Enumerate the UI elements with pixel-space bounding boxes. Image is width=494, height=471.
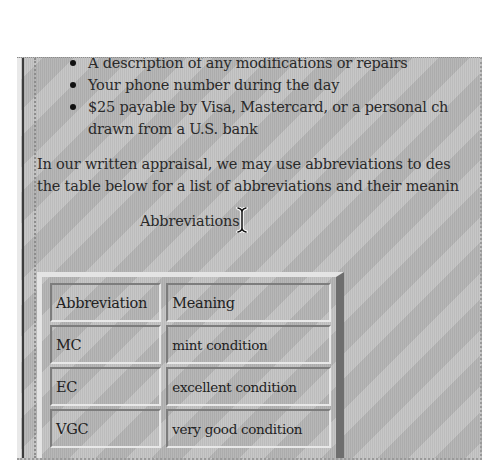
abbreviations-table[interactable]: Abbreviation Meaning MC mint condition E…	[45, 280, 336, 451]
page-left-border-line	[22, 58, 24, 458]
table-caption[interactable]: Abbreviations	[37, 211, 482, 231]
table-cell-meaning[interactable]: excellent condition	[166, 367, 331, 406]
table-header-row: Abbreviation Meaning	[50, 283, 331, 322]
bullet-icon	[70, 60, 76, 66]
table-row: VGC very good condition	[50, 409, 331, 448]
list-item-text: Your phone number during the day	[88, 77, 339, 93]
list-item-text: $25 payable by Visa, Mastercard, or a pe…	[88, 99, 448, 115]
list-item-text: drawn from a U.S. bank	[88, 121, 258, 137]
table-cell-abbreviation[interactable]: VGC	[50, 409, 161, 448]
bullet-icon	[70, 104, 76, 110]
table-header-abbreviation[interactable]: Abbreviation	[50, 283, 161, 322]
page-left-margin	[17, 58, 21, 458]
table-row: EC excellent condition	[50, 367, 331, 406]
table-cell-meaning[interactable]: mint condition	[166, 325, 331, 364]
table-cell-abbreviation[interactable]: EC	[50, 367, 161, 406]
table-header-meaning[interactable]: Meaning	[166, 283, 331, 322]
list-item-text: A description of any modifications or re…	[88, 57, 407, 71]
bullet-icon	[70, 82, 76, 88]
list-item[interactable]: Your phone number during the day	[37, 74, 482, 96]
table-caption-text: Abbreviations	[140, 213, 239, 229]
list-item-continuation[interactable]: drawn from a U.S. bank	[37, 118, 482, 140]
table-cell-meaning[interactable]: very good condition	[166, 409, 331, 448]
requirements-list: A description of any modifications or re…	[37, 57, 482, 140]
document-page[interactable]: A description of any modifications or re…	[17, 57, 482, 460]
list-item[interactable]: $25 payable by Visa, Mastercard, or a pe…	[37, 96, 482, 118]
paragraph-line: In our written appraisal, we may use abb…	[37, 156, 450, 172]
document-content[interactable]: A description of any modifications or re…	[37, 57, 482, 231]
page-left-dotted-guide	[34, 58, 36, 458]
abbreviations-paragraph[interactable]: In our written appraisal, we may use abb…	[37, 153, 482, 197]
table-row: MC mint condition	[50, 325, 331, 364]
table-cell-abbreviation[interactable]: MC	[50, 325, 161, 364]
paragraph-line: the table below for a list of abbreviati…	[37, 178, 459, 194]
list-item[interactable]: A description of any modifications or re…	[37, 57, 482, 74]
i-beam-cursor-icon	[236, 207, 248, 233]
abbreviations-table-frame: Abbreviation Meaning MC mint condition E…	[37, 272, 344, 460]
